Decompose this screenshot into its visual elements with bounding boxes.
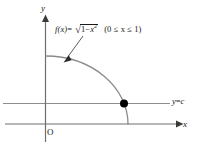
equation-label: f(x)= √1−x2(0 ≤ x ≤ 1) — [55, 24, 142, 35]
origin-label: O — [47, 128, 54, 137]
annotation-leader-line — [67, 36, 83, 58]
curve-quarter-circle — [46, 56, 129, 124]
equation-argument: (x) — [57, 24, 67, 34]
intersection-point-marker — [120, 100, 128, 108]
figure-canvas: y x O y=c f(x)= √1−x2(0 ≤ x ≤ 1) — [0, 0, 197, 150]
radicand-exponent: 2 — [94, 23, 97, 29]
y-axis-arrowhead — [42, 15, 49, 23]
line-label-y-equals-c: y=c — [172, 97, 184, 106]
annotation-arrowhead — [64, 55, 72, 62]
y-axis-label: y — [41, 4, 45, 13]
line-label-c: c — [181, 96, 185, 106]
figure-svg — [0, 0, 197, 150]
equation-equals: = — [67, 24, 72, 34]
equation-radicand: 1−x2 — [80, 24, 98, 34]
x-axis-label: x — [183, 120, 187, 129]
equation-radical: √1−x2 — [74, 24, 98, 35]
equation-domain: (0 ≤ x ≤ 1) — [104, 24, 141, 34]
